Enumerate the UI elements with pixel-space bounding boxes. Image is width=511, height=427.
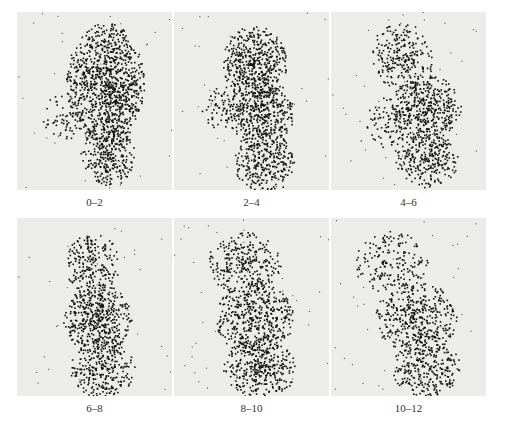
scan-panel: [174, 218, 329, 396]
panel-time-label: 0–2: [17, 196, 172, 208]
scan-image: [17, 12, 172, 190]
scan-image: [17, 218, 172, 396]
panel-time-label: 8–10: [174, 402, 329, 414]
scan-image: [331, 218, 486, 396]
panel-time-label: 6–8: [17, 402, 172, 414]
scan-panel: [174, 12, 329, 190]
scan-image: [174, 12, 329, 190]
panel-time-label: 4–6: [331, 196, 486, 208]
panel-time-label: 10–12: [331, 402, 486, 414]
scan-panel: [17, 12, 172, 190]
scan-panel: [331, 218, 486, 396]
panel-time-label: 2–4: [174, 196, 329, 208]
scan-panel: [17, 218, 172, 396]
scan-image: [174, 218, 329, 396]
scan-panel: [331, 12, 486, 190]
scan-image: [331, 12, 486, 190]
